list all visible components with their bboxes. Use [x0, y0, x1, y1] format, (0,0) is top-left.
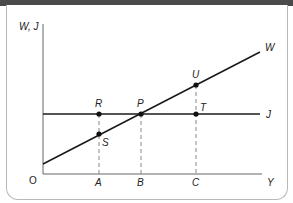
point-s: [96, 131, 101, 136]
c-tick-label: C: [192, 177, 200, 188]
economics-diagram: W, J W J R S P U T O A B C Y: [0, 0, 293, 203]
point-u: [193, 82, 198, 87]
p-label: P: [137, 98, 144, 109]
s-label: S: [102, 137, 109, 148]
a-tick-label: A: [94, 177, 102, 188]
x-axis-label: Y: [267, 177, 275, 188]
j-curve-label: J: [265, 109, 272, 120]
t-label: T: [200, 102, 207, 113]
w-line: [43, 52, 260, 164]
point-r: [96, 111, 101, 116]
r-label: R: [95, 98, 102, 109]
origin-label: O: [29, 175, 37, 186]
y-axis-label: W, J: [19, 21, 40, 32]
u-label: U: [192, 69, 200, 80]
point-t: [193, 111, 198, 116]
b-tick-label: B: [137, 177, 144, 188]
point-p: [138, 111, 143, 116]
w-curve-label: W: [265, 42, 276, 53]
